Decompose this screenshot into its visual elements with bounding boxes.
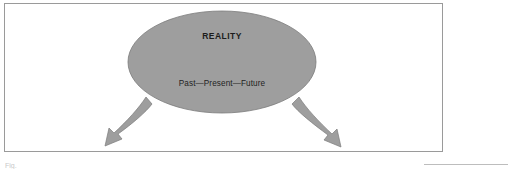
figure-root: REALITY Past—Present—Future Fig.: [0, 0, 511, 169]
reality-diagram: REALITY Past—Present—Future: [0, 0, 511, 169]
reality-label: REALITY: [202, 31, 242, 41]
right-arrow: [292, 97, 341, 147]
footer-rule: [424, 164, 508, 165]
reality-ellipse: [128, 11, 316, 113]
footer-caption: Fig.: [5, 162, 17, 169]
timeline-label: Past—Present—Future: [179, 79, 266, 88]
left-arrow: [105, 97, 152, 146]
